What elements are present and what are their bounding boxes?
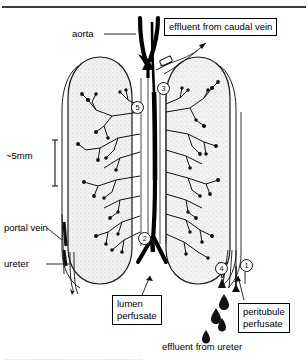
- callout-circle-3: 3: [157, 82, 170, 95]
- label-ureter: ureter: [4, 258, 29, 269]
- callout-circle-2: 2: [138, 232, 151, 245]
- box-effluent-from-caudal-vein: effluent from caudal vein: [164, 18, 277, 36]
- box-lumen-perfusate: lumen perfusate: [112, 295, 162, 325]
- aorta-vessel: [138, 18, 158, 78]
- callout-circle-1: 1: [240, 259, 253, 272]
- box-peritubule-line2: perfusate: [243, 318, 285, 330]
- callout-circle-5: 5: [131, 101, 144, 114]
- figure-panel: aorta ~5mm portal vein ureter effluent f…: [0, 0, 308, 362]
- scale-bar: [52, 140, 58, 186]
- label-scale: ~5mm: [6, 150, 33, 161]
- cut-off-caption-line: ........................................…: [4, 354, 304, 362]
- label-aorta: aorta: [72, 28, 94, 39]
- box-peritubule-line1: peritubule: [243, 306, 285, 318]
- label-effluent-from-ureter: effluent from ureter: [162, 341, 242, 352]
- label-portal-vein: portal vein: [4, 222, 48, 233]
- box-peritubule-perfusate: peritubule perfusate: [238, 303, 290, 333]
- portal-vein-vessel: [62, 214, 66, 274]
- right-kidney-outline: [166, 57, 241, 288]
- box-lumen-line1: lumen: [117, 298, 157, 310]
- effluent-droplets: [202, 294, 229, 344]
- callout-circle-4: 4: [215, 262, 228, 275]
- portal-vein-leader: [47, 228, 62, 240]
- box-effluent-caudal-text: effluent from caudal vein: [169, 21, 272, 33]
- box-lumen-line2: perfusate: [117, 310, 157, 322]
